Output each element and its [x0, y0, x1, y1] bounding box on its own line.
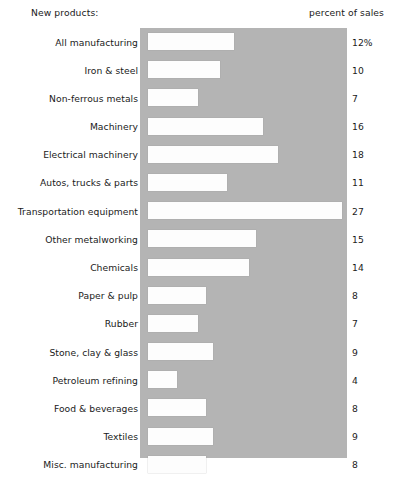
- bar: [148, 33, 234, 50]
- bar-track: [148, 371, 177, 388]
- bar: [148, 118, 263, 135]
- bar-track: [148, 33, 234, 50]
- bar-row-label: Stone, clay & glass: [49, 347, 138, 358]
- bar-track: [148, 456, 206, 473]
- bar-row: Food & beverages8: [0, 394, 393, 422]
- bar: [148, 89, 198, 106]
- bar: [148, 146, 278, 163]
- bar: [148, 315, 198, 332]
- bar-row-value: 9: [352, 431, 358, 442]
- bar: [148, 371, 177, 388]
- bar: [148, 202, 342, 219]
- bar-track: [148, 287, 206, 304]
- bar-track: [148, 118, 263, 135]
- bar-row-value: 8: [352, 403, 358, 414]
- bar-track: [148, 61, 220, 78]
- bar-track: [148, 343, 213, 360]
- bar-row-label: Other metalworking: [45, 234, 138, 245]
- bar-row-label: Paper & pulp: [78, 290, 138, 301]
- bar: [148, 259, 249, 276]
- bar-row-value: 4: [352, 375, 358, 386]
- value-column-header: percent of sales: [309, 7, 384, 18]
- bar: [148, 174, 227, 191]
- bar: [148, 343, 213, 360]
- bar-row: Electrical machinery18: [0, 141, 393, 169]
- bar-row-value: 12%: [352, 37, 373, 48]
- bar-row-value: 15: [352, 234, 364, 245]
- bar: [148, 61, 220, 78]
- bar-row-label: Food & beverages: [54, 403, 138, 414]
- bar-row-value: 9: [352, 347, 358, 358]
- bar-row: Autos, trucks & parts11: [0, 169, 393, 197]
- bar-row-label: Electrical machinery: [43, 149, 138, 160]
- bar-row: Iron & steel10: [0, 56, 393, 84]
- bar-row: Transportation equipment27: [0, 197, 393, 225]
- bar-track: [148, 230, 256, 247]
- bar: [148, 456, 206, 473]
- bar-row-label: Autos, trucks & parts: [40, 177, 138, 188]
- bar-row: Petroleum refining4: [0, 366, 393, 394]
- bar-row: Machinery16: [0, 113, 393, 141]
- bar-row-value: 16: [352, 121, 364, 132]
- bar-row-label: Iron & steel: [84, 65, 138, 76]
- bar-row: All manufacturing12%: [0, 28, 393, 56]
- bar-row: Rubber7: [0, 310, 393, 338]
- bar-row-label: Petroleum refining: [52, 375, 138, 386]
- bar-row-label: Chemicals: [90, 262, 138, 273]
- bar-row: Paper & pulp8: [0, 282, 393, 310]
- bar: [148, 399, 206, 416]
- bar-row-value: 7: [352, 318, 358, 329]
- chart-title: New products:: [31, 7, 98, 18]
- bar-row: Non-ferrous metals7: [0, 84, 393, 112]
- bar-row: Other metalworking15: [0, 225, 393, 253]
- bar-row-label: Transportation equipment: [18, 206, 138, 217]
- bar-track: [148, 202, 342, 219]
- bar-row-label: Rubber: [105, 318, 138, 329]
- bar-track: [148, 428, 213, 445]
- bar-row-label: Non-ferrous metals: [49, 93, 138, 104]
- bar: [148, 230, 256, 247]
- bar-track: [148, 146, 278, 163]
- bar-track: [148, 89, 198, 106]
- bar-rows: All manufacturing12%Iron & steel10Non-fe…: [0, 28, 393, 478]
- bar-row-value: 27: [352, 206, 364, 217]
- bar-track: [148, 174, 227, 191]
- bar-row-label: Machinery: [90, 121, 138, 132]
- bar-row-value: 7: [352, 93, 358, 104]
- bar-row-value: 18: [352, 149, 364, 160]
- bar-row-value: 8: [352, 290, 358, 301]
- bar-row: Textiles9: [0, 423, 393, 451]
- bar-row-label: Textiles: [103, 431, 138, 442]
- bar-track: [148, 259, 249, 276]
- bar-row: Chemicals14: [0, 254, 393, 282]
- bar-row-value: 11: [352, 177, 364, 188]
- bar-row-value: 10: [352, 65, 364, 76]
- bar-row-label: Misc. manufacturing: [43, 459, 138, 470]
- bar-track: [148, 399, 206, 416]
- bar-row-label: All manufacturing: [55, 37, 138, 48]
- bar-track: [148, 315, 198, 332]
- bar: [148, 428, 213, 445]
- bar-row-value: 8: [352, 459, 358, 470]
- bar-row: Misc. manufacturing8: [0, 451, 393, 478]
- bar-row: Stone, clay & glass9: [0, 338, 393, 366]
- bar-row-value: 14: [352, 262, 364, 273]
- bar: [148, 287, 206, 304]
